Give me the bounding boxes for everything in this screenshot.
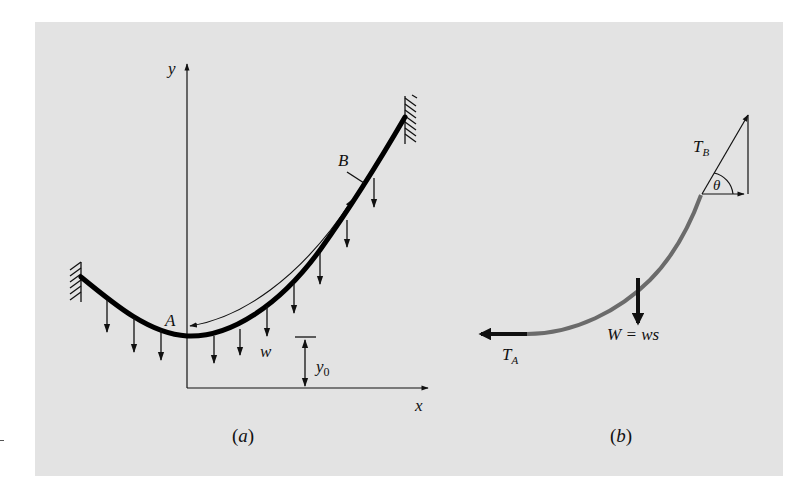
cable-a [81, 117, 405, 336]
load-label: w [260, 342, 272, 361]
caption-a: (a) [232, 425, 254, 447]
panel-b: TA W = ws TB θ (b) [481, 115, 748, 447]
arc-length-arrow [190, 200, 352, 326]
tension-b-label: TB [693, 137, 709, 158]
distributed-load-arrows [107, 178, 374, 363]
y-axis-label: y [166, 59, 176, 78]
point-b-marker [347, 172, 364, 183]
right-wall-support-icon [405, 95, 417, 144]
angle-theta-label: θ [713, 177, 721, 193]
y0-label: y0 [314, 357, 330, 379]
point-a-label: A [164, 311, 176, 330]
left-wall-support-icon [70, 262, 81, 302]
cable-b [527, 195, 701, 334]
y0-dimension [295, 337, 316, 386]
tension-a-label: TA [502, 345, 518, 366]
caption-b: (b) [610, 425, 632, 447]
catenary-figure: y x A B w y [0, 0, 804, 494]
weight-label: W = ws [607, 325, 659, 344]
x-axis-label: x [414, 396, 423, 415]
panel-a: y x A B w y [70, 59, 428, 447]
point-b-label: B [338, 151, 349, 170]
